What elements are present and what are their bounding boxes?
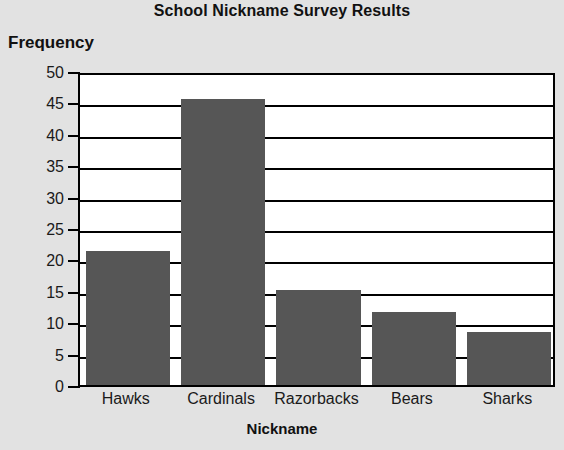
y-axis-tick-label: 45 <box>46 95 64 113</box>
y-axis-tick-label: 0 <box>55 378 64 396</box>
y-axis-tick-label: 35 <box>46 158 64 176</box>
y-axis-tick-label: 50 <box>46 64 64 82</box>
bar <box>276 290 360 385</box>
x-axis-category-label: Hawks <box>102 390 150 408</box>
y-axis-tick-label: 25 <box>46 221 64 239</box>
plot-area <box>78 73 555 387</box>
x-axis-category-label: Sharks <box>482 390 532 408</box>
bar <box>86 251 170 385</box>
x-axis-title: Nickname <box>0 420 564 437</box>
bar-chart: School Nickname Survey Results Frequency… <box>0 0 564 450</box>
bar <box>181 99 265 385</box>
y-axis-tick-label: 40 <box>46 127 64 145</box>
chart-title: School Nickname Survey Results <box>0 2 564 20</box>
bar-series <box>80 75 553 385</box>
bar <box>467 332 551 385</box>
y-axis-tick-label: 10 <box>46 315 64 333</box>
y-axis-title: Frequency <box>8 33 94 53</box>
y-axis-tick-label: 20 <box>46 252 64 270</box>
x-axis-category-label: Razorbacks <box>274 390 358 408</box>
bar <box>372 312 456 385</box>
y-axis-tick-label: 15 <box>46 284 64 302</box>
y-axis-tick-label: 30 <box>46 190 64 208</box>
x-axis-category-label: Bears <box>391 390 433 408</box>
x-axis-category-label: Cardinals <box>187 390 255 408</box>
y-axis-tick-label: 5 <box>55 347 64 365</box>
x-axis-category-labels: HawksCardinalsRazorbacksBearsSharks <box>78 390 555 416</box>
y-axis-tick-labels: 05101520253035404550 <box>20 73 64 387</box>
